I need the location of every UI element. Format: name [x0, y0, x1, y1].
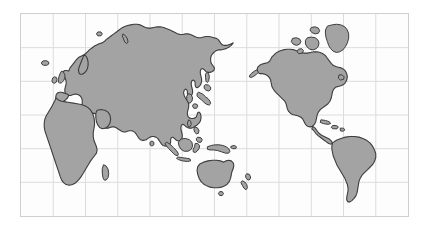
svalbard-island — [96, 32, 102, 36]
japan-hokkaido-island — [204, 85, 210, 91]
tasmania-island — [218, 192, 223, 196]
sri-lanka-island — [150, 141, 154, 146]
baffin-island — [305, 37, 319, 50]
ireland-island — [52, 77, 57, 83]
puerto-rico-lesser-antilles — [340, 128, 345, 131]
sakhalin-island — [205, 72, 209, 82]
bismarck-archipelago-island — [231, 145, 237, 148]
iceland-island — [42, 61, 49, 65]
arabia-peninsula — [96, 110, 111, 129]
taiwan-island — [187, 120, 191, 127]
map-frame — [20, 13, 409, 217]
world-map-canvas — [21, 14, 408, 216]
world-map-figure — [0, 0, 429, 230]
korea-peninsula — [187, 94, 193, 104]
japan-kyushu-shikoku-island — [193, 104, 198, 108]
borneo-island — [178, 138, 192, 151]
hudson-bay-island-cluster — [297, 49, 303, 54]
victoria-island — [291, 38, 301, 46]
philippines-mindanao-island — [196, 137, 202, 142]
hispaniola-island — [331, 126, 338, 129]
newfoundland-island — [338, 75, 344, 80]
